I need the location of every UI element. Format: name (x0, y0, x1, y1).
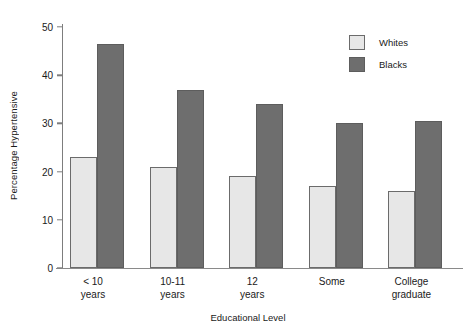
bar-whites (309, 186, 336, 268)
x-axis-tick-label-line1: 12 (247, 276, 258, 287)
bar-whites (150, 167, 177, 268)
bar-blacks (97, 44, 124, 268)
x-axis-tick-label-line1: < 10 (83, 276, 103, 287)
x-axis-title: Educational Level (0, 312, 472, 323)
legend-label: Whites (379, 37, 408, 48)
y-axis-title-text: Percentage Hypertensive (8, 91, 19, 200)
legend-item-blacks: Blacks (349, 53, 459, 75)
bar-blacks (336, 123, 363, 268)
bar-blacks (415, 121, 442, 268)
y-axis-title: Percentage Hypertensive (2, 0, 24, 290)
x-axis-tick-label-line1: College (394, 276, 428, 287)
bar-whites (388, 191, 415, 268)
x-axis-tick-label: Collegegraduate (363, 276, 459, 301)
x-axis-tick-label-line2: years (204, 289, 300, 302)
x-axis-line (56, 268, 463, 269)
legend-item-whites: Whites (349, 31, 459, 53)
x-axis-tick-label-line1: 10-11 (160, 276, 185, 287)
legend-swatch-blacks (349, 57, 365, 72)
bar-blacks (177, 90, 204, 268)
x-axis-tick-label-line2: graduate (363, 289, 459, 302)
legend-label: Blacks (379, 59, 407, 70)
bar-group (142, 27, 204, 268)
bar-group (62, 27, 124, 268)
bar-blacks (256, 104, 283, 268)
bar-chart-figure: Percentage Hypertensive 01020304050 < 10… (0, 0, 472, 335)
x-axis-tick-label-line1: Some (319, 276, 345, 287)
x-axis-title-text: Educational Level (211, 312, 286, 323)
bar-whites (229, 176, 256, 268)
bar-whites (70, 157, 97, 268)
legend-swatch-whites (349, 35, 365, 50)
bar-group (221, 27, 283, 268)
chart-legend: WhitesBlacks (349, 31, 459, 75)
